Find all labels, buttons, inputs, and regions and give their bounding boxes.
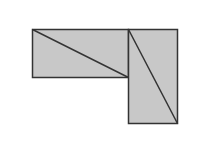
diagram-canvas (0, 0, 218, 165)
vertical-rectangle (129, 30, 178, 124)
horizontal-rectangle (33, 30, 129, 78)
